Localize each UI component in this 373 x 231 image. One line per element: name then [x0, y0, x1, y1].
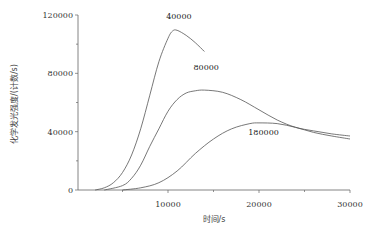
series-label-180000: 180000: [248, 128, 279, 137]
y-tick-label: 120000: [42, 11, 73, 20]
axes: 04000080000120000100002000030000: [42, 11, 362, 209]
y-tick-label: 0: [68, 186, 73, 195]
series-label-40000: 40000: [166, 12, 191, 21]
y-tick-label: 80000: [48, 69, 73, 78]
y-tick-label: 40000: [48, 128, 73, 137]
x-tick-label: 30000: [337, 200, 362, 209]
series-line-80000: [104, 90, 350, 190]
chemiluminescence-chart: 04000080000120000100002000030000 4000080…: [0, 0, 373, 231]
series-label-80000: 80000: [193, 63, 218, 72]
series-line-40000: [95, 30, 204, 190]
series-lines: [95, 30, 350, 190]
x-tick-label: 10000: [155, 200, 180, 209]
y-axis-title: 化学发光强度/(计数/s): [9, 64, 19, 144]
series-labels: 4000080000180000: [166, 12, 279, 136]
x-axis-title: 时间/s: [203, 214, 226, 224]
x-tick-label: 20000: [246, 200, 271, 209]
